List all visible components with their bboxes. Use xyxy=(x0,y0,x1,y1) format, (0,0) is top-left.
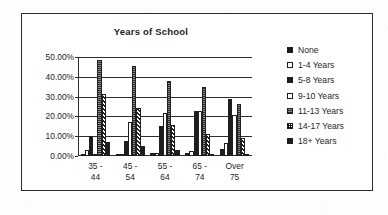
bar-cluster xyxy=(182,57,217,156)
legend-item-label: 14-17 Years xyxy=(298,121,344,131)
y-axis-tick-label: 0.00% xyxy=(50,151,74,161)
legend-swatch-icon xyxy=(287,108,293,114)
legend-item-label: 9-10 Years xyxy=(298,91,339,101)
scan-speckle xyxy=(363,10,364,11)
scan-speckle xyxy=(245,191,247,193)
chart-title: Years of School xyxy=(22,26,280,37)
scan-speckle xyxy=(48,205,49,206)
scan-speckle xyxy=(228,10,230,12)
bar xyxy=(210,154,214,156)
scan-speckle xyxy=(384,58,385,59)
bar xyxy=(106,142,110,156)
y-axis-tick-label: 50.00% xyxy=(46,52,74,62)
y-axis-tick-label: 10.00% xyxy=(46,131,74,141)
legend-item-label: 11-13 Years xyxy=(298,106,343,116)
legend-item: 18+ Years xyxy=(287,134,373,149)
x-axis-label-line: 75 xyxy=(215,172,255,183)
legend-item: 14-17 Years xyxy=(287,118,373,133)
y-axis-tick-mark xyxy=(75,156,78,157)
legend-swatch-icon xyxy=(287,123,293,129)
scan-speckle xyxy=(212,197,213,198)
scan-speckle xyxy=(322,207,324,209)
x-axis-label-line: Over xyxy=(215,161,255,172)
legend-item-label: 18+ Years xyxy=(298,136,336,146)
x-axis-category-label: Over75 xyxy=(215,161,255,183)
scan-speckle xyxy=(13,22,14,23)
legend-item-label: 1-4 Years xyxy=(298,60,334,70)
legend-item: 5-8 Years xyxy=(287,73,373,88)
bar-cluster xyxy=(78,57,113,156)
legend-item: 11-13 Years xyxy=(287,103,373,118)
legend-swatch-icon xyxy=(287,47,293,53)
plot-area: 50.00%40.00%30.00%20.00%10.00%0.00% xyxy=(78,57,252,156)
scan-speckle xyxy=(1,130,2,131)
scan-speckle xyxy=(150,8,151,9)
legend-item: None xyxy=(287,42,373,57)
bar xyxy=(206,134,210,156)
chart-frame: Years of School 50.00%40.00%30.00%20.00%… xyxy=(21,13,373,191)
bar xyxy=(245,154,249,156)
y-axis-tick-label: 20.00% xyxy=(46,111,74,121)
scan-speckle xyxy=(17,12,18,13)
scan-speckle xyxy=(204,206,205,207)
y-axis-tick-label: 30.00% xyxy=(46,92,74,102)
legend-item-label: 5-8 Years xyxy=(298,75,334,85)
legend-swatch-icon xyxy=(287,77,293,83)
legend-item: 1-4 Years xyxy=(287,57,373,72)
bar xyxy=(141,146,145,156)
scan-speckle xyxy=(12,102,13,103)
scan-speckle xyxy=(384,152,385,153)
legend-swatch-icon xyxy=(287,93,293,99)
legend-item-label: None xyxy=(298,45,319,55)
legend-swatch-icon xyxy=(287,138,293,144)
bar-cluster xyxy=(217,57,252,156)
y-axis-tick-label: 40.00% xyxy=(46,72,74,82)
legend-swatch-icon xyxy=(287,62,293,68)
scan-speckle xyxy=(380,130,381,131)
scan-speckle xyxy=(31,201,33,203)
legend-item: 9-10 Years xyxy=(287,88,373,103)
bar xyxy=(175,150,179,156)
chart-legend: None1-4 Years5-8 Years9-10 Years11-13 Ye… xyxy=(287,42,373,149)
bar-cluster xyxy=(148,57,183,156)
bar-cluster xyxy=(113,57,148,156)
